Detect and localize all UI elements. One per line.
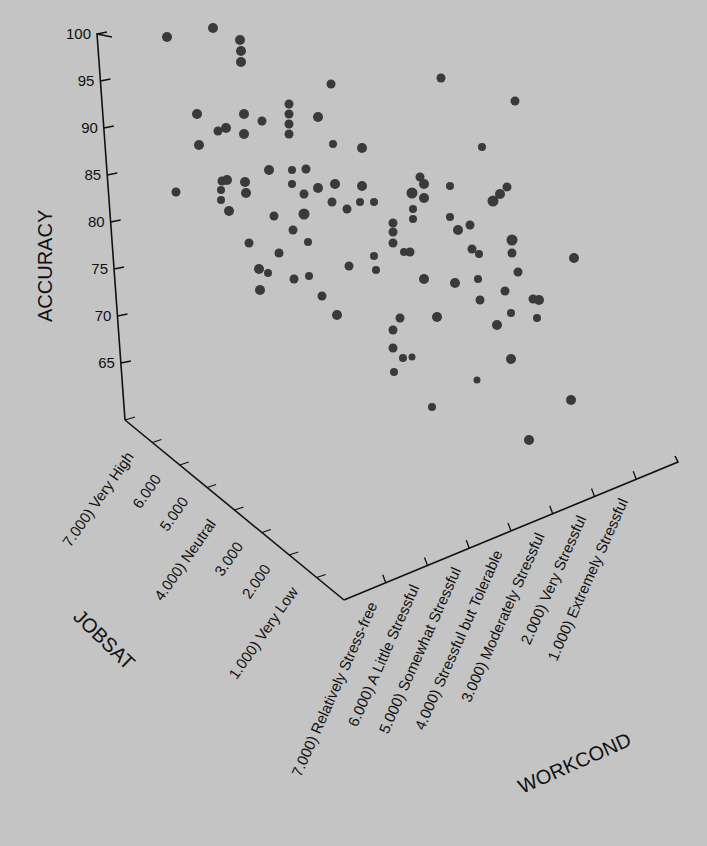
workcond-ticks: 7.000) Relatively Stress-free6.000) A Li… bbox=[288, 471, 636, 779]
data-point bbox=[372, 266, 380, 274]
data-point bbox=[437, 74, 446, 83]
data-point bbox=[450, 278, 460, 288]
jobsat-tick-label: 2.000 bbox=[238, 561, 273, 602]
data-point bbox=[224, 206, 234, 216]
data-point bbox=[288, 180, 296, 188]
accuracy-tick-label: 80 bbox=[88, 213, 105, 230]
data-point bbox=[566, 395, 576, 405]
data-point bbox=[370, 252, 378, 260]
accuracy-tick-label: 70 bbox=[95, 307, 112, 324]
data-point bbox=[356, 198, 364, 206]
data-point bbox=[235, 35, 245, 45]
accuracy-tick-label: 75 bbox=[91, 260, 108, 277]
scatter-3d-chart: 10095908580757065 7.000) Very High6.0005… bbox=[0, 0, 707, 846]
jobsat-tick-label: 5.000 bbox=[156, 493, 191, 534]
data-point bbox=[305, 272, 313, 280]
jobsat-tick-label: 7.000) Very High bbox=[59, 448, 137, 549]
data-point bbox=[399, 354, 407, 362]
data-point bbox=[255, 285, 265, 295]
data-point bbox=[194, 140, 204, 150]
data-point bbox=[222, 175, 232, 185]
data-point bbox=[241, 188, 251, 198]
data-point bbox=[264, 269, 272, 277]
data-point bbox=[507, 309, 515, 317]
data-point bbox=[357, 143, 367, 153]
data-point bbox=[492, 320, 502, 330]
data-point bbox=[389, 239, 398, 248]
data-point bbox=[329, 140, 337, 148]
accuracy-tick-label: 90 bbox=[81, 119, 98, 136]
data-point bbox=[192, 109, 202, 119]
data-point bbox=[327, 80, 336, 89]
data-point bbox=[475, 250, 483, 258]
data-point bbox=[289, 226, 298, 235]
workcond-axis-title: WORKCOND bbox=[515, 728, 635, 797]
jobsat-axis-title: JOBSAT bbox=[69, 605, 139, 674]
jobsat-tick-label: 6.000 bbox=[129, 471, 164, 512]
data-point bbox=[569, 253, 579, 263]
data-point bbox=[495, 189, 505, 199]
data-point bbox=[217, 196, 225, 204]
data-point bbox=[468, 245, 477, 254]
data-point bbox=[476, 296, 485, 305]
data-point bbox=[357, 181, 367, 191]
data-point bbox=[270, 212, 279, 221]
data-point bbox=[506, 354, 516, 364]
data-point bbox=[474, 377, 481, 384]
data-point bbox=[239, 129, 249, 139]
data-point bbox=[409, 354, 416, 361]
data-point bbox=[409, 215, 417, 223]
data-point bbox=[236, 46, 246, 56]
data-point bbox=[419, 274, 429, 284]
data-point bbox=[428, 403, 436, 411]
data-point bbox=[285, 120, 294, 129]
data-point bbox=[302, 165, 311, 174]
data-point bbox=[290, 275, 299, 284]
data-point bbox=[208, 23, 218, 33]
data-point bbox=[217, 186, 225, 194]
data-point bbox=[514, 268, 523, 277]
data-point bbox=[304, 238, 312, 246]
data-point bbox=[328, 198, 337, 207]
data-point bbox=[288, 166, 296, 174]
data-point bbox=[503, 183, 512, 192]
data-point bbox=[501, 287, 510, 296]
data-point bbox=[275, 249, 284, 258]
accuracy-tick-label: 95 bbox=[78, 72, 95, 89]
data-point bbox=[406, 248, 415, 257]
data-point bbox=[285, 100, 294, 109]
data-point bbox=[419, 179, 429, 189]
data-point bbox=[432, 312, 442, 322]
accuracy-axis-title: ACCURACY bbox=[34, 210, 56, 322]
data-point bbox=[409, 205, 417, 213]
data-point bbox=[419, 193, 429, 203]
data-point bbox=[524, 435, 534, 445]
data-point bbox=[285, 110, 294, 119]
jobsat-tick-label: 3.000 bbox=[211, 538, 246, 579]
data-point bbox=[245, 239, 254, 248]
data-point bbox=[390, 368, 398, 376]
data-point bbox=[453, 225, 463, 235]
data-point bbox=[396, 314, 405, 323]
data-point bbox=[389, 228, 398, 237]
data-point bbox=[345, 262, 354, 271]
accuracy-tick-label: 85 bbox=[85, 166, 102, 183]
data-point bbox=[258, 117, 267, 126]
data-point bbox=[389, 219, 398, 228]
data-point bbox=[254, 264, 264, 274]
data-point bbox=[370, 198, 378, 206]
data-point bbox=[511, 97, 520, 106]
data-point bbox=[299, 209, 310, 220]
data-point bbox=[446, 213, 454, 221]
data-point bbox=[240, 177, 250, 187]
data-point bbox=[172, 188, 181, 197]
accuracy-tick-label: 100 bbox=[66, 25, 91, 42]
data-point bbox=[474, 275, 482, 283]
data-point bbox=[478, 143, 486, 151]
jobsat-tick-label: 4.000) Neutral bbox=[151, 516, 219, 604]
data-point bbox=[221, 123, 231, 133]
data-point bbox=[318, 292, 327, 301]
data-point bbox=[300, 190, 309, 199]
data-point bbox=[236, 57, 246, 67]
data-point bbox=[332, 310, 342, 320]
